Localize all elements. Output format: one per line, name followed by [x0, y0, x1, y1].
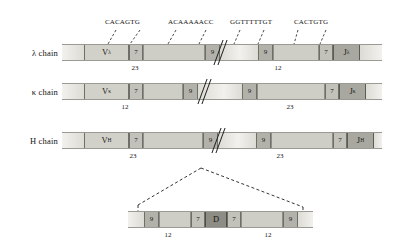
- kappa-downstream-fade: [366, 84, 382, 99]
- kappa-break-gap-left: [198, 84, 224, 99]
- d-segment-detail-bar: 9 7 D 7 9: [128, 211, 313, 228]
- lambda-spacer-right: [273, 45, 319, 60]
- d-nonamer-left: 9: [144, 212, 159, 227]
- heavy-break-gap-right: [238, 133, 256, 148]
- d-nonamer-right: 9: [283, 212, 298, 227]
- heavy-nonamer-right: 9: [256, 133, 271, 148]
- kappa-nonamer-left: 9: [183, 84, 198, 99]
- d-segment: D: [205, 212, 227, 227]
- heavy-nonamer-left: 9: [203, 133, 218, 148]
- kappa-heptamer-left: 7: [129, 84, 143, 99]
- lambda-heptamer-left: 7: [129, 45, 143, 60]
- kappa-nonamer-right: 9: [242, 84, 257, 99]
- row-label-kappa: κ chain: [8, 87, 58, 97]
- kappa-spacer-left: [143, 84, 183, 99]
- kappa-j-segment: Jκ: [339, 84, 366, 99]
- spacer-length-kappa-right: 23: [265, 103, 315, 111]
- lambda-break-gap-right: [240, 45, 258, 60]
- heavy-spacer-left: [143, 133, 203, 148]
- heavy-v-segment: VH: [84, 133, 129, 148]
- heavy-downstream-fade: [374, 133, 382, 148]
- spacer-length-lambda-right: 12: [253, 64, 303, 72]
- locus-bar-heavy: VH 7 9 9 7 JH: [62, 132, 382, 149]
- sequence-label-nonamer-left: ACAAAAACC: [168, 18, 214, 26]
- spacer-length-heavy-right: 23: [255, 152, 305, 160]
- heavy-heptamer-left: 7: [129, 133, 143, 148]
- diagram-canvas: CACAGTG ACAAAAACC GGTTTTTGT CACTGTG λ ch…: [0, 0, 393, 252]
- lambda-heptamer-right: 7: [319, 45, 333, 60]
- kappa-upstream-fade: [62, 84, 84, 99]
- spacer-length-d-right: 12: [248, 231, 288, 239]
- locus-bar-kappa: Vκ 7 9 9 7 Jκ: [62, 83, 382, 100]
- kappa-v-subscript: κ: [108, 89, 111, 95]
- lambda-v-subscript: λ: [108, 50, 111, 56]
- kappa-break-gap-right: [224, 84, 242, 99]
- sequence-label-heptamer-right: CACTGTG: [294, 18, 328, 26]
- locus-bar-lambda: Vλ 7 9 9 7 Jλ: [62, 44, 382, 61]
- lambda-nonamer-right: 9: [258, 45, 273, 60]
- kappa-j-subscript: κ: [353, 89, 356, 95]
- heavy-spacer-right: [271, 133, 333, 148]
- lambda-downstream-fade: [360, 45, 382, 60]
- d-heptamer-right: 7: [227, 212, 241, 227]
- lambda-break-gap-left: [220, 45, 240, 60]
- heavy-j-subscript: H: [360, 138, 364, 144]
- d-spacer-right: [241, 212, 283, 227]
- lambda-j-subscript: λ: [347, 50, 350, 56]
- heavy-upstream-fade: [62, 133, 84, 148]
- heavy-v-subscript: H: [108, 138, 112, 144]
- kappa-v-segment: Vκ: [84, 84, 129, 99]
- d-spacer-left: [159, 212, 191, 227]
- spacer-length-d-left: 12: [148, 231, 188, 239]
- lambda-upstream-fade: [62, 45, 84, 60]
- kappa-spacer-right: [257, 84, 325, 99]
- lambda-v-segment: Vλ: [84, 45, 129, 60]
- lambda-nonamer-left: 9: [205, 45, 220, 60]
- spacer-length-heavy-left: 23: [108, 152, 158, 160]
- row-label-lambda: λ chain: [8, 48, 58, 58]
- row-label-heavy: H chain: [8, 136, 58, 146]
- lambda-spacer-left: [143, 45, 205, 60]
- spacer-length-kappa-left: 12: [100, 103, 150, 111]
- d-downstream-fade: [298, 212, 313, 227]
- lambda-j-segment: Jλ: [333, 45, 360, 60]
- d-upstream-fade: [128, 212, 144, 227]
- kappa-heptamer-right: 7: [325, 84, 339, 99]
- heavy-j-segment: JH: [347, 133, 374, 148]
- sequence-label-heptamer-left: CACAGTG: [105, 18, 140, 26]
- heavy-break-gap-left: [218, 133, 238, 148]
- sequence-label-nonamer-right: GGTTTTTGT: [230, 18, 272, 26]
- d-heptamer-left: 7: [191, 212, 205, 227]
- spacer-length-lambda-left: 23: [110, 64, 160, 72]
- heavy-heptamer-right: 7: [333, 133, 347, 148]
